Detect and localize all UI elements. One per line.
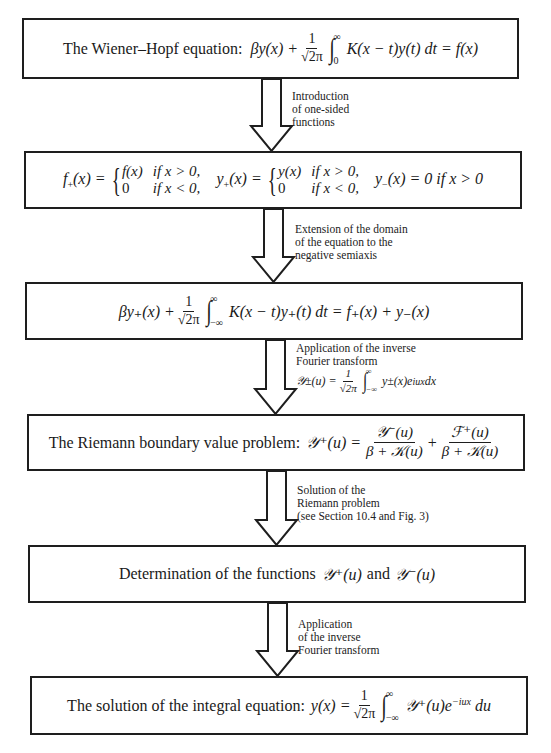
step-determine-functions: Determination of the functions 𝒴⁺(u) and… — [28, 545, 526, 603]
integral-sign-icon: ∫ ∞−∞ — [380, 689, 398, 723]
fourier-transform-formula: 𝒴±(u) = 1√2π ∫∞−∞ y±(x)eiux dx — [296, 368, 436, 394]
fraction: ℱ⁺(u) β + 𝒦(u) — [442, 425, 499, 460]
down-arrow-icon — [254, 340, 298, 415]
formula-lhs: y(x) = — [311, 697, 351, 715]
transition-label-3: Application of the inverse Fourier trans… — [296, 342, 436, 394]
f-plus-cases: { f(x)if x > 0, 0if x < 0, — [108, 163, 201, 198]
step-label: The Wiener–Hopf equation: — [63, 40, 242, 58]
formula-rhs: K(x − t)y(t) dt = f(x) — [347, 40, 478, 58]
formula-lhs: 𝒴⁺(u) = — [306, 433, 361, 452]
integral-sign-icon: ∫ ∞−∞ — [205, 294, 223, 328]
step-label: The solution of the integral equation: — [67, 697, 305, 715]
fraction: 𝒴⁻(u) β + 𝒦(u) — [366, 425, 423, 460]
fraction: 1 √2π — [178, 295, 200, 327]
y-plus-cases: { y(x)if x > 0, 0if x < 0, — [264, 163, 359, 198]
integral-sign-icon: ∫ ∞0 — [328, 32, 341, 66]
step-label: Determination of the functions — [119, 565, 316, 583]
formula-lhs: βy(x) + — [250, 40, 298, 58]
step-wiener-hopf-equation: The Wiener–Hopf equation: βy(x) + 1 √2π … — [22, 18, 519, 79]
step-riemann-problem: The Riemann boundary value problem: 𝒴⁺(u… — [27, 414, 525, 471]
step-one-sided-functions: f+(x) = { f(x)if x > 0, 0if x < 0, y+(x)… — [24, 151, 522, 209]
transition-label-1: Introduction of one-sided functions — [292, 90, 349, 129]
f-plus-def: f+(x) = — [63, 170, 106, 190]
down-arrow-icon — [250, 79, 294, 152]
transition-label-2: Extension of the domain of the equation … — [295, 223, 408, 262]
fraction: 1 √2π — [353, 689, 375, 721]
formula-rhs: 𝒴⁺(u)e−iux du — [405, 696, 491, 715]
y-plus-def: y+(x) = — [216, 170, 261, 190]
formula-rhs: K(x − t)y₊(t) dt = f₊(x) + y₋(x) — [229, 302, 429, 321]
step-label: The Riemann boundary value problem: — [49, 434, 300, 452]
transition-label-5: Application of the inverse Fourier trans… — [298, 618, 379, 657]
formula-lhs: βy₊(x) + — [119, 302, 175, 321]
down-arrow-icon — [252, 209, 296, 283]
fraction: 1 √2π — [301, 32, 323, 64]
step-solution: The solution of the integral equation: y… — [30, 676, 528, 735]
transition-label-4: Solution of the Riemann problem (see Sec… — [297, 484, 429, 523]
step-extended-equation: βy₊(x) + 1 √2π ∫ ∞−∞ K(x − t)y₊(t) dt = … — [25, 282, 523, 340]
y-minus-def: y−(x) = 0 if x > 0 — [375, 170, 483, 190]
down-arrow-icon — [256, 603, 300, 677]
down-arrow-icon — [255, 471, 299, 546]
